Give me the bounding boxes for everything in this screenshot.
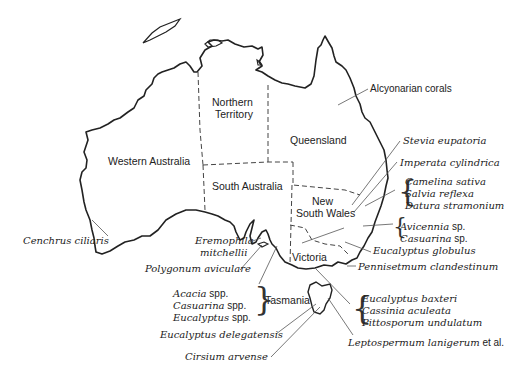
- annotation-eremophila-1: Eremophila: [195, 236, 254, 246]
- melville-island: [205, 40, 222, 47]
- eucalyptus-spp-suffix: spp.: [229, 312, 251, 323]
- brace-tasmania-group: }: [254, 283, 274, 315]
- label-victoria: Victoria: [292, 252, 327, 263]
- annotation-imperata: Imperata cylindrica: [400, 158, 500, 168]
- annotation-pittosporum: Pittosporum undulatum: [362, 318, 482, 328]
- leptospermum-suffix: et al.: [480, 337, 504, 348]
- annotation-alcyonarian-corals: Alcyonarian corals: [370, 84, 452, 94]
- label-northern-territory-2: Territory: [215, 109, 253, 120]
- label-south-australia: South Australia: [212, 181, 283, 192]
- casuarina-sp-genus: Casuarina: [400, 233, 452, 244]
- annotation-cenchrus: Cenchrus ciliaris: [23, 236, 109, 246]
- annotation-casuarina-sp: Casuarina sp.: [400, 229, 468, 245]
- label-nsw-2: South Wales: [296, 208, 355, 219]
- label-queensland: Queensland: [290, 135, 347, 146]
- annotation-stevia: Stevia eupatoria: [403, 136, 486, 146]
- annotation-datura: Datura stramonium: [405, 201, 504, 211]
- annotation-camelina: Camelina sativa: [405, 177, 486, 187]
- annotation-eucalyptus-spp: Eucalyptus spp.: [173, 308, 251, 324]
- eucalyptus-spp-genus: Eucalyptus: [173, 312, 229, 323]
- annotation-cassinia: Cassinia aculeata: [362, 306, 451, 316]
- annotation-leptospermum: Leptospermum lanigerum et al.: [348, 333, 504, 349]
- annotation-eucalyptus-globulus: Eucalyptus globulus: [373, 246, 476, 256]
- casuarina-sp-suffix: sp.: [452, 233, 468, 244]
- kangaroo-island: [258, 242, 268, 247]
- timor-island: [143, 19, 180, 43]
- annotation-pennisetum: Pennisetmum clandestinum: [358, 262, 498, 272]
- annotation-cirsium: Cirsium arvense: [185, 352, 268, 362]
- annotation-salvia: Salvia reflexa: [405, 189, 474, 199]
- label-western-australia: Western Australia: [108, 156, 190, 167]
- label-nsw-1: New: [312, 196, 333, 207]
- label-northern-territory-1: Northern: [212, 97, 253, 108]
- annotation-delegatensis: Eucalyptus delegatensis: [160, 330, 283, 340]
- annotation-eremophila-2: mitchellii: [200, 248, 247, 258]
- leptospermum-genus: Leptospermum lanigerum: [348, 337, 480, 348]
- annotation-polygonum: Polygonum aviculare: [145, 264, 251, 274]
- annotation-eucalyptus-baxteri: Eucalyptus baxteri: [362, 294, 457, 304]
